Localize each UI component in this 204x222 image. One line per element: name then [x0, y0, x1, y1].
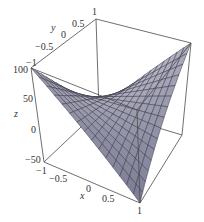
box-edge [31, 68, 44, 162]
z-tick-0: 0 [31, 124, 36, 135]
surface-plot: −1 −0.5 0 0.5 1 y 100 50 0 −50 z −1 −0.5… [0, 0, 204, 222]
box-edge [96, 19, 191, 43]
z-tick-100: 100 [13, 64, 28, 75]
y-tick-0.5: 0.5 [72, 18, 85, 29]
x-tick-neg0.5: −0.5 [49, 173, 67, 184]
z-axis-label: z [13, 108, 18, 119]
surface-patch [31, 68, 44, 79]
x-tick-0.5: 0.5 [102, 193, 115, 204]
y-axis-label: y [50, 22, 56, 33]
x-tick-1: 1 [137, 205, 142, 216]
y-tick-0: 0 [61, 29, 66, 40]
z-tick-50: 50 [23, 93, 33, 104]
x-tick-neg1: −1 [36, 165, 47, 176]
z-tick-neg50: −50 [25, 154, 41, 165]
x-tick-0: 0 [86, 183, 91, 194]
x-axis-label: x [79, 190, 85, 201]
y-tick-1: 1 [92, 6, 97, 17]
y-tick-neg0.5: −0.5 [35, 41, 53, 52]
